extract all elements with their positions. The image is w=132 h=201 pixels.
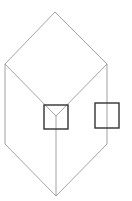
edge-inner-left <box>5 64 56 116</box>
edge-top-left <box>5 12 55 64</box>
edge-bottom-right <box>56 144 107 196</box>
cube-edges <box>5 12 107 196</box>
cube-diagram <box>0 0 132 201</box>
edge-inner-right <box>56 64 107 116</box>
highlight-squares <box>44 103 119 129</box>
edge-top-right <box>55 12 107 64</box>
edge-bottom-left <box>5 144 56 196</box>
